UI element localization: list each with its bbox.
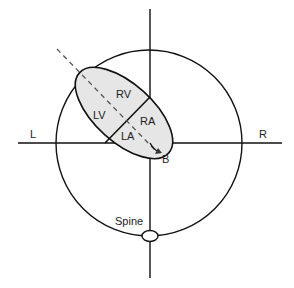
label-ra: RA (140, 115, 156, 127)
label-left: L (30, 128, 36, 140)
label-lv: LV (93, 109, 106, 121)
label-rv: RV (116, 88, 132, 100)
label-right: R (259, 128, 267, 140)
label-beam: B (162, 153, 169, 165)
diagram-canvas: L R RV LV RA LA B Spine (0, 0, 294, 288)
label-spine: Spine (115, 215, 143, 227)
label-la: LA (121, 130, 135, 142)
spine-ellipse (142, 231, 158, 242)
